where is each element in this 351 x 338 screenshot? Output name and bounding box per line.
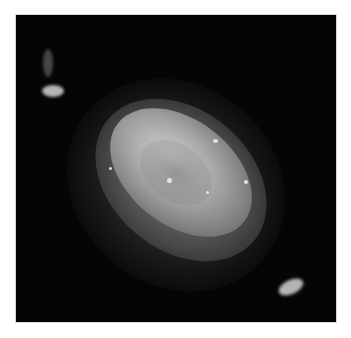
bright-knot [213, 139, 218, 143]
bright-knot [206, 191, 209, 194]
bright-knot [244, 180, 248, 184]
nebula-ansa-southeast [276, 275, 305, 299]
nebula-ansa-northwest [42, 85, 64, 97]
nebula-photo [15, 14, 337, 323]
bright-knot [109, 167, 112, 170]
image-caption [0, 326, 351, 338]
nebula-jet-northwest [43, 49, 53, 77]
bright-knot [167, 178, 172, 183]
